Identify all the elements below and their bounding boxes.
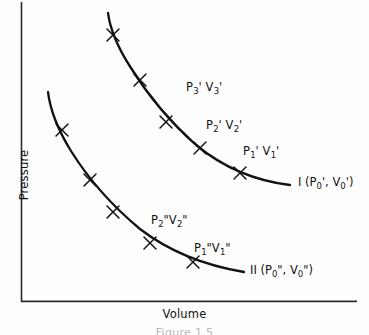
label-p3-prime-mark: ': [199, 80, 202, 94]
label-p2-double-prime: P2"V2": [151, 215, 188, 228]
label-v3-symbol: V: [206, 80, 214, 94]
label-v1dp-prime-mark: ": [225, 241, 230, 255]
y-axis-title: Pressure: [17, 130, 31, 220]
label-p1-prime: P1' V1': [243, 146, 279, 159]
curve-two-markers: [56, 124, 199, 268]
label-p3-prime: P3' V3': [186, 82, 222, 95]
plot-canvas: [0, 0, 369, 335]
marker-cross: [160, 116, 172, 128]
label-v2dp-symbol: V: [169, 213, 177, 227]
figure-caption: Figure 1.5: [0, 326, 369, 335]
curve-one-p-symbol: P: [310, 175, 317, 189]
label-p1-double-prime: P1"V1": [194, 243, 231, 256]
marker-cross: [144, 237, 156, 249]
label-p2-prime: P2' V2': [206, 120, 242, 133]
label-p1-prime-mark: ': [256, 144, 259, 158]
label-v3-prime-mark: ': [219, 80, 222, 94]
curve-two-roman: II: [250, 263, 257, 277]
curve-one-roman: I: [298, 175, 301, 189]
curve-one-close-paren: ): [349, 175, 354, 189]
curve-one-comma: ,: [325, 175, 329, 189]
marker-cross: [107, 206, 119, 218]
label-v2-prime-mark: ': [239, 118, 242, 132]
x-axis-title: Volume: [0, 307, 369, 321]
label-v1-symbol: V: [263, 144, 271, 158]
label-v2-symbol: V: [226, 118, 234, 132]
pressure-volume-figure: P3' V3' P2' V2' P1' V1' I (P0', V0') P2"…: [0, 0, 369, 335]
label-v1dp-symbol: V: [212, 241, 220, 255]
endpoint-label-curve-one: I (P0', V0'): [298, 177, 353, 190]
marker-cross: [134, 74, 146, 86]
curve-two-comma: ,: [283, 263, 287, 277]
curve-two-p-symbol: P: [265, 263, 272, 277]
curve-two-close-paren: ): [309, 263, 314, 277]
label-v1-prime-mark: ': [276, 144, 279, 158]
label-p2-prime-mark: ': [219, 118, 222, 132]
label-v2dp-prime-mark: ": [182, 213, 187, 227]
endpoint-label-curve-two: II (P0", V0"): [250, 265, 313, 278]
marker-cross: [84, 174, 96, 186]
marker-cross: [194, 142, 206, 154]
curve-one-markers: [107, 29, 246, 179]
curve-two-v-symbol: V: [290, 263, 298, 277]
